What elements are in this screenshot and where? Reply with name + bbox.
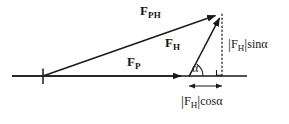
- cos-trig: cosα: [200, 94, 222, 108]
- label-component-sin: |FH|sinα: [228, 37, 268, 53]
- cos-symbol: F: [184, 94, 191, 108]
- sin-trig: sinα: [247, 37, 267, 51]
- label-angle-alpha: α: [192, 62, 198, 74]
- label-fp-subscript: P: [135, 61, 141, 71]
- sin-symbol: F: [231, 37, 238, 51]
- label-vector-fph: FPH: [140, 4, 161, 20]
- vector-diagram-figure: FPH FH FP α |FH|sinα |FH|cosα: [0, 0, 289, 124]
- label-component-cos: |FH|cosα: [181, 94, 223, 110]
- label-fph-subscript: PH: [148, 10, 161, 20]
- label-fh-subscript: H: [173, 42, 180, 52]
- label-fh-symbol: F: [165, 35, 173, 50]
- label-vector-fp: FP: [127, 55, 141, 71]
- right-angle-marker: [217, 70, 223, 75]
- label-vector-fh: FH: [165, 36, 180, 52]
- label-fp-symbol: F: [127, 54, 135, 69]
- label-fph-symbol: F: [140, 3, 148, 18]
